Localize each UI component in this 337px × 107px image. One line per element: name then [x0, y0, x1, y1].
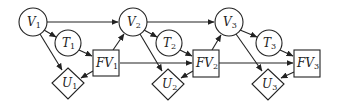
- edge-v2-t2: [144, 30, 157, 37]
- node-t3: T3: [256, 30, 282, 56]
- node-fv1: FV1: [93, 50, 119, 76]
- edge-fv1-v2: [113, 34, 124, 50]
- node-u3: U3: [252, 69, 284, 100]
- edge-v1-t1: [44, 30, 56, 37]
- node-v1: V1: [19, 8, 47, 36]
- edge-t1-fv1: [79, 50, 92, 56]
- node-fv3: FV3: [294, 50, 320, 77]
- decision-network-diagram: V1 T1 FV1 U1 V2 T2 FV2 U2 V3 T3 FV3: [0, 0, 337, 107]
- node-fv2: FV2: [193, 50, 219, 77]
- edge-fv2-u2: [181, 71, 193, 78]
- edge-fv1-u1: [81, 71, 93, 78]
- edge-fv2-v3: [212, 35, 221, 50]
- edge-fv3-u3: [281, 72, 294, 78]
- edge-t3-fv3: [280, 50, 293, 56]
- node-v2: V2: [119, 8, 147, 36]
- node-t1: T1: [55, 30, 81, 56]
- node-u2: U2: [152, 69, 184, 100]
- node-v3: V3: [215, 8, 243, 36]
- node-u1: U1: [52, 68, 84, 99]
- edge-t2-fv2: [180, 50, 192, 56]
- node-t2: T2: [156, 30, 182, 56]
- edge-v3-t3: [240, 30, 257, 37]
